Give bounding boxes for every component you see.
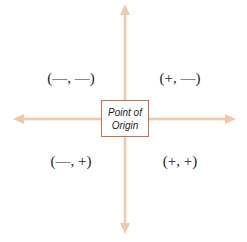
quadrant-label-top-left: (—, —) xyxy=(47,70,95,87)
quadrant-label-top-right: (+, —) xyxy=(160,70,201,87)
quadrant-label-bottom-right: (+, +) xyxy=(163,153,197,170)
arrow-right-icon xyxy=(225,114,236,124)
origin-label-line1: Point of xyxy=(108,106,142,119)
origin-label-line2: Origin xyxy=(112,119,139,132)
quadrant-label-bottom-left: (—, +) xyxy=(51,153,92,170)
arrow-left-icon xyxy=(13,114,24,124)
arrow-down-icon xyxy=(120,223,130,234)
arrow-up-icon xyxy=(120,4,130,15)
point-of-origin-box: Point of Origin xyxy=(101,100,149,137)
